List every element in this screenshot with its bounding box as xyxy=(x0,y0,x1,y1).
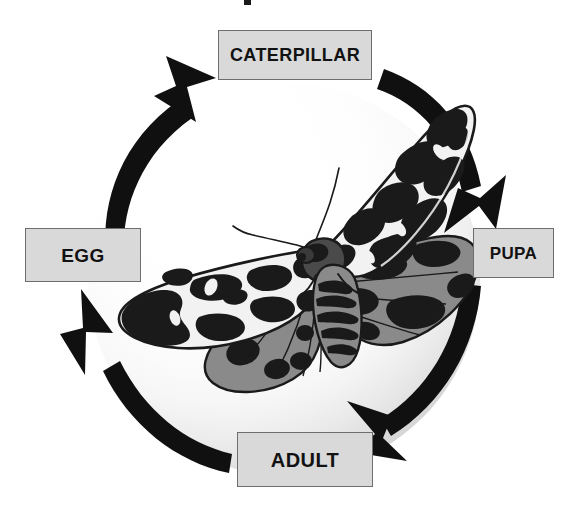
stage-label-caterpillar: CATERPILLAR xyxy=(230,46,360,64)
stage-label-egg: EGG xyxy=(61,246,104,265)
moth-head xyxy=(297,247,315,263)
life-cycle-diagram: CATERPILLAR PUPA EGG ADULT xyxy=(0,0,577,511)
stage-label-adult: ADULT xyxy=(271,450,339,470)
top-edge-artifact xyxy=(244,0,251,5)
stage-label-pupa: PUPA xyxy=(490,245,538,262)
stage-box-adult[interactable]: ADULT xyxy=(237,432,373,487)
stage-box-pupa[interactable]: PUPA xyxy=(473,228,554,278)
stage-box-caterpillar[interactable]: CATERPILLAR xyxy=(218,30,372,80)
stage-box-egg[interactable]: EGG xyxy=(25,228,141,282)
